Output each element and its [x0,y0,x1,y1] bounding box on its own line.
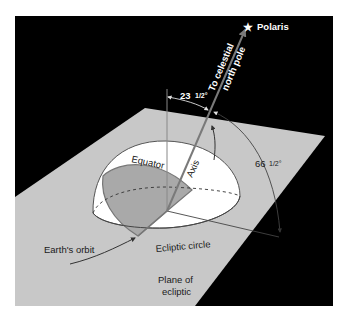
earths-orbit-label: Earth's orbit [44,244,95,255]
ecliptic-label: ecliptic [162,286,191,297]
earth-tilt-diagram: ★ Polaris To celestial north pole 23 1/2… [0,0,341,317]
star-icon: ★ [243,21,253,33]
plane-of-label: Plane of [158,274,193,285]
complement-angle-fraction: 1/2° [269,160,282,167]
complement-angle-label: 66 [255,158,266,169]
polaris-label: Polaris [257,21,289,32]
tilt-angle-label: 23 [180,90,191,101]
tilt-angle-fraction: 1/2° [195,92,208,99]
